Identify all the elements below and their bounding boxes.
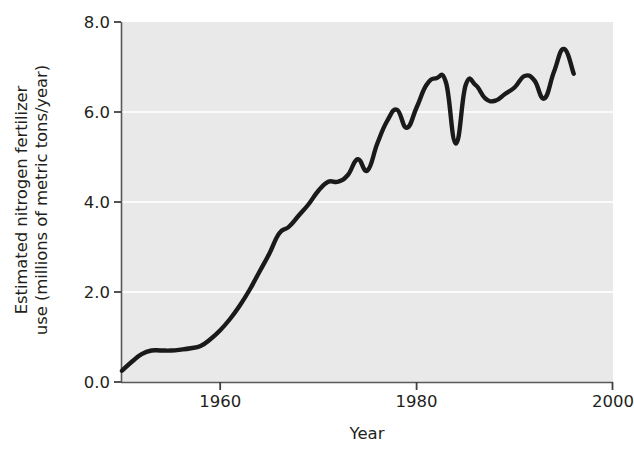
chart-figure: Estimated nitrogen fertilizer use (milli… — [0, 0, 630, 452]
plot-area — [0, 0, 630, 452]
